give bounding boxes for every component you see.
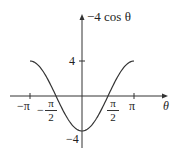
x-axis-arrow-icon xyxy=(162,94,168,99)
x-tick-neg-half-pi: π2 xyxy=(45,98,57,123)
y-axis-label: −4 cos θ xyxy=(87,10,131,23)
x-tick-neg-half-pi-sign: − xyxy=(37,104,44,116)
y-tick-neg-4: −4 xyxy=(66,133,79,145)
x-tick-neg-pi: −π xyxy=(17,100,30,112)
y-axis-arrow-icon xyxy=(80,14,85,20)
x-tick-pi: π xyxy=(129,100,135,112)
x-axis-label: θ xyxy=(163,100,169,112)
y-tick-4: 4 xyxy=(69,55,75,67)
x-tick-half-pi: π2 xyxy=(107,98,119,123)
